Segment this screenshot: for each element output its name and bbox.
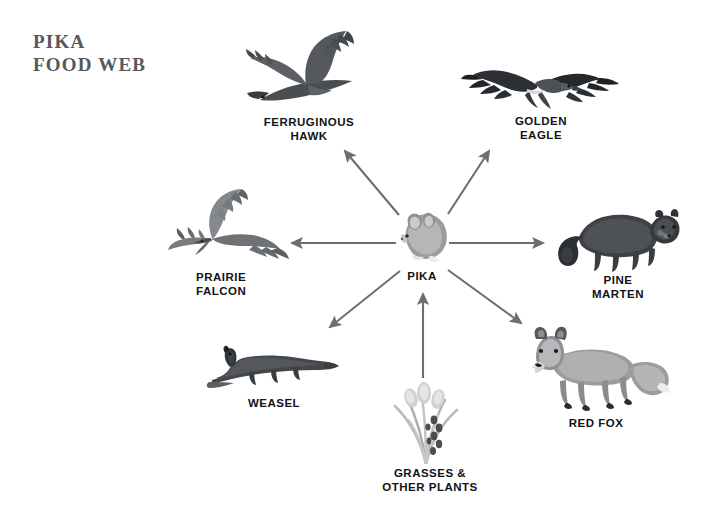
- node-red-fox[interactable]: [522, 325, 672, 413]
- arrow-pika-to-eagle: [448, 151, 489, 214]
- pika-icon: [390, 208, 454, 266]
- food-web-diagram: PIKA FOOD WEB: [0, 0, 706, 529]
- prairie-falcon-icon: [168, 185, 290, 275]
- node-golden-eagle[interactable]: [461, 33, 621, 115]
- node-pine-marten[interactable]: [555, 203, 685, 275]
- grasses-icon: [383, 380, 469, 464]
- label-pine-marten: PINE MARTEN: [548, 273, 688, 301]
- label-grasses: GRASSES & OTHER PLANTS: [360, 466, 500, 494]
- label-prairie-falcon: PRAIRIE FALCON: [196, 270, 336, 298]
- weasel-icon: [206, 340, 342, 396]
- label-ferruginous-hawk: FERRUGINOUS HAWK: [229, 115, 389, 143]
- label-red-fox: RED FOX: [536, 416, 656, 430]
- node-weasel[interactable]: [206, 340, 342, 396]
- label-weasel: WEASEL: [214, 396, 334, 410]
- node-ferruginous-hawk[interactable]: [244, 28, 376, 116]
- ferruginous-hawk-icon: [244, 28, 376, 116]
- golden-eagle-icon: [461, 33, 621, 115]
- pine-marten-icon: [555, 203, 685, 275]
- node-grasses[interactable]: [383, 380, 469, 464]
- arrow-pika-to-hawk: [345, 151, 399, 215]
- red-fox-icon: [522, 325, 672, 413]
- node-prairie-falcon[interactable]: [168, 185, 290, 275]
- node-pika[interactable]: [390, 208, 454, 266]
- label-golden-eagle: GOLDEN EAGLE: [471, 114, 611, 142]
- label-pika: PIKA: [382, 269, 462, 283]
